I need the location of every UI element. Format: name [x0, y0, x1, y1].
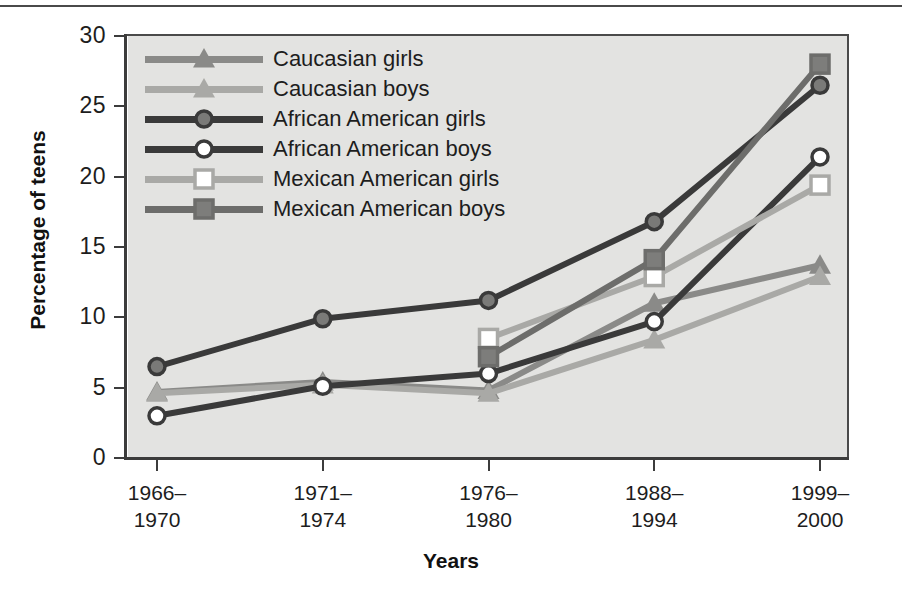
- x-axis-tick-label-line: 1976–: [429, 480, 549, 507]
- legend-swatch: [145, 44, 263, 74]
- triangle-marker: [193, 78, 215, 98]
- square-marker: [195, 200, 213, 218]
- legend-item[interactable]: African American boys: [145, 134, 505, 164]
- x-axis-tick-label-line: 1988–: [594, 480, 714, 507]
- y-axis-tick: [114, 387, 125, 389]
- x-axis-tick-label-line: 1966–: [97, 480, 217, 507]
- x-axis-tick-label-line: 1974: [263, 507, 383, 534]
- x-axis-tick-label-line: 1999–: [760, 480, 880, 507]
- circle-marker: [196, 111, 212, 127]
- legend-swatch: [145, 134, 263, 164]
- legend-label: Caucasian girls: [273, 48, 423, 70]
- y-axis-tick-label: 5: [40, 376, 106, 399]
- legend-marker-square-icon: [145, 164, 263, 194]
- line-chart-figure: 051015202530 1966–19701971–19741976–1980…: [0, 0, 902, 597]
- legend-item[interactable]: African American girls: [145, 104, 505, 134]
- x-axis-tick-label: 1976–1980: [429, 480, 549, 534]
- legend-item[interactable]: Mexican American boys: [145, 194, 505, 224]
- legend-label: African American boys: [273, 138, 492, 160]
- circle-marker: [196, 141, 212, 157]
- x-axis-tick: [156, 460, 158, 471]
- x-axis-tick-label-line: 1971–: [263, 480, 383, 507]
- legend-item[interactable]: Caucasian girls: [145, 44, 505, 74]
- y-axis-tick: [114, 105, 125, 107]
- x-axis-tick-label: 1988–1994: [594, 480, 714, 534]
- legend-item[interactable]: Mexican American girls: [145, 164, 505, 194]
- y-axis-tick-label: 25: [40, 94, 106, 117]
- x-axis-tick: [819, 460, 821, 471]
- x-axis-tick-label-line: 2000: [760, 507, 880, 534]
- chart-legend: Caucasian girlsCaucasian boysAfrican Ame…: [145, 44, 505, 224]
- legend-swatch: [145, 74, 263, 104]
- x-axis-tick-label: 1966–1970: [97, 480, 217, 534]
- x-axis-tick: [488, 460, 490, 471]
- legend-marker-circle-icon: [145, 134, 263, 164]
- y-axis-title: Percentage of teens: [26, 120, 50, 340]
- plot-top-border: [124, 34, 849, 36]
- x-axis-tick-label: 1999–2000: [760, 480, 880, 534]
- legend-label: African American girls: [273, 108, 486, 130]
- legend-label: Mexican American boys: [273, 198, 505, 220]
- triangle-marker: [193, 48, 215, 68]
- x-axis-tick-label-line: 1970: [97, 507, 217, 534]
- square-marker: [195, 170, 213, 188]
- x-axis-tick: [322, 460, 324, 471]
- x-axis-title: Years: [0, 549, 902, 573]
- legend-item[interactable]: Caucasian boys: [145, 74, 505, 104]
- x-axis-tick-label: 1971–1974: [263, 480, 383, 534]
- legend-swatch: [145, 194, 263, 224]
- x-axis-tick-label-line: 1980: [429, 507, 549, 534]
- legend-marker-triangle-icon: [145, 74, 263, 104]
- y-axis-tick-label: 30: [40, 24, 106, 47]
- legend-marker-circle-icon: [145, 104, 263, 134]
- legend-swatch: [145, 104, 263, 134]
- x-axis-tick-label-line: 1994: [594, 507, 714, 534]
- y-axis-tick: [114, 316, 125, 318]
- legend-label: Mexican American girls: [273, 168, 499, 190]
- x-axis-tick: [653, 460, 655, 471]
- y-axis-tick-label: 0: [40, 446, 106, 469]
- x-axis-line: [124, 457, 849, 460]
- legend-label: Caucasian boys: [273, 78, 430, 100]
- y-axis-tick: [114, 35, 125, 37]
- y-axis-tick: [114, 246, 125, 248]
- y-axis-tick: [114, 176, 125, 178]
- legend-swatch: [145, 164, 263, 194]
- legend-marker-triangle-icon: [145, 44, 263, 74]
- legend-marker-square-icon: [145, 194, 263, 224]
- y-axis-tick: [114, 457, 125, 459]
